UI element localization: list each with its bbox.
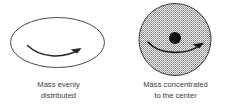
evenly-distributed-disk-illustration	[0, 0, 117, 80]
mass-distribution-comparison-figure: Mass evenly distributed	[0, 0, 234, 112]
central-mass-dot	[169, 32, 181, 44]
panel-mass-evenly-distributed: Mass evenly distributed	[0, 0, 117, 112]
caption-line-2: to the center	[117, 91, 234, 102]
uniform-disk-ellipse-outline	[11, 18, 105, 68]
caption-mass-evenly-distributed: Mass evenly distributed	[0, 80, 117, 101]
concentrated-mass-disk-illustration	[117, 0, 234, 80]
caption-line-1: Mass evenly	[0, 80, 117, 91]
caption-line-1: Mass concentrated	[117, 80, 234, 91]
panel-mass-concentrated-to-center: Mass concentrated to the center	[117, 0, 234, 112]
caption-mass-concentrated-to-center: Mass concentrated to the center	[117, 80, 234, 101]
rotation-arrow-shaft	[28, 46, 80, 56]
caption-line-2: distributed	[0, 91, 117, 102]
rotation-arrow-left-panel	[28, 46, 82, 56]
